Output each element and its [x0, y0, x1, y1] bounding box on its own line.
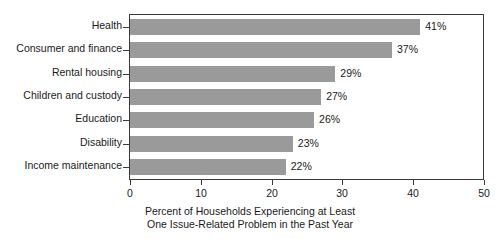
category-tick-mark — [123, 120, 129, 121]
x-axis-tick-label: 50 — [464, 187, 500, 199]
x-axis-tick-mark — [201, 180, 202, 185]
x-axis-tick-label: 30 — [322, 187, 362, 199]
category-tick-mark — [123, 74, 129, 75]
category-tick-mark — [123, 167, 129, 168]
bar-value-label: 22% — [291, 161, 312, 172]
bar — [130, 89, 321, 105]
bar — [130, 159, 286, 175]
bar-chart-figure: HealthConsumer and financeRental housing… — [0, 0, 500, 239]
category-label: Income maintenance — [0, 160, 122, 171]
category-label: Health — [0, 20, 122, 31]
category-axis-labels: HealthConsumer and financeRental housing… — [0, 14, 122, 180]
category-tick-mark — [123, 27, 129, 28]
category-tick-mark — [123, 144, 129, 145]
bars-container — [130, 15, 484, 179]
bar — [130, 42, 392, 58]
bar — [130, 112, 314, 128]
x-axis-tick-mark — [342, 180, 343, 185]
x-axis-tick-mark — [413, 180, 414, 185]
x-axis-tick-label: 0 — [110, 187, 150, 199]
category-tick-mark — [123, 97, 129, 98]
x-axis-tick-mark — [130, 180, 131, 185]
category-label: Disability — [0, 137, 122, 148]
bar — [130, 19, 420, 35]
x-axis-caption-line-1: Percent of Households Experiencing at Le… — [0, 205, 500, 218]
bar-value-label: 27% — [326, 91, 347, 102]
bar-value-label: 26% — [319, 114, 340, 125]
category-label: Consumer and finance — [0, 43, 122, 54]
bar — [130, 136, 293, 152]
bar-value-label: 29% — [340, 68, 361, 79]
x-axis-caption: Percent of Households Experiencing at Le… — [0, 205, 500, 231]
category-label: Rental housing — [0, 67, 122, 78]
category-label: Children and custody — [0, 90, 122, 101]
bar-value-label: 41% — [425, 21, 446, 32]
bar-value-label: 37% — [397, 44, 418, 55]
x-axis-tick-label: 40 — [393, 187, 433, 199]
x-axis-tick-mark — [272, 180, 273, 185]
x-axis-tick-mark — [484, 180, 485, 185]
bar-value-label: 23% — [298, 138, 319, 149]
category-label: Education — [0, 113, 122, 124]
x-axis-tick-label: 10 — [181, 187, 221, 199]
category-tick-mark — [123, 50, 129, 51]
x-axis-tick-label: 20 — [252, 187, 292, 199]
bar — [130, 66, 335, 82]
x-axis-caption-line-2: One Issue-Related Problem in the Past Ye… — [0, 218, 500, 231]
